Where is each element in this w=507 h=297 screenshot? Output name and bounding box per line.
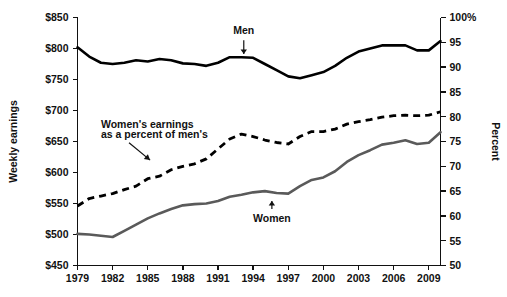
- right-tick-label: 90: [450, 61, 462, 73]
- right-tick-label: 85: [450, 86, 462, 98]
- x-tick-label: 1979: [66, 272, 90, 284]
- x-tick-label: 1982: [101, 272, 125, 284]
- right-tick-label: 100%: [450, 11, 478, 23]
- right-tick-label: 60: [450, 210, 462, 222]
- x-tick-label: 1991: [206, 272, 230, 284]
- x-tick-label: 2000: [312, 272, 336, 284]
- x-tick-label: 1997: [277, 272, 301, 284]
- right-tick-label: 65: [450, 185, 462, 197]
- men-label: Men: [233, 24, 254, 36]
- left-tick-label: $750: [45, 73, 69, 85]
- right-tick-label: 50: [450, 259, 462, 271]
- left-tick-label: $800: [45, 42, 69, 54]
- x-tick-label: 1988: [171, 272, 195, 284]
- left-tick-label: $550: [45, 197, 69, 209]
- right-tick-label: 95: [450, 36, 462, 48]
- right-tick-label: 80: [450, 111, 462, 123]
- right-tick-label: 75: [450, 135, 462, 147]
- left-tick-label: $650: [45, 135, 69, 147]
- x-tick-label: 2009: [417, 272, 441, 284]
- left-tick-label: $500: [45, 228, 69, 240]
- chart-background: [0, 0, 507, 297]
- chart-container: $450$500$550$600$650$700$750$800$850 505…: [0, 0, 507, 297]
- earnings-chart: $450$500$550$600$650$700$750$800$850 505…: [0, 0, 507, 297]
- x-tick-label: 1985: [136, 272, 160, 284]
- x-tick-label: 1994: [241, 272, 265, 284]
- left-tick-label: $700: [45, 104, 69, 116]
- left-tick-label: $600: [45, 166, 69, 178]
- left-tick-label: $450: [45, 259, 69, 271]
- y2-axis-title: Percent: [490, 122, 502, 161]
- y-axis-title: Weekly earnings: [7, 100, 19, 183]
- right-tick-label: 70: [450, 160, 462, 172]
- women-label: Women: [253, 212, 291, 224]
- x-tick-label: 2003: [347, 272, 371, 284]
- right-tick-label: 55: [450, 235, 462, 247]
- x-tick-label: 2006: [382, 272, 406, 284]
- ratio-label-line2: as a percent of men's: [101, 128, 208, 140]
- left-tick-label: $850: [45, 11, 69, 23]
